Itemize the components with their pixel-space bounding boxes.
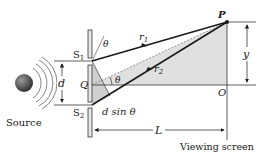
wavefront-icon (33, 68, 41, 98)
d-label: d (58, 77, 65, 90)
viewing-screen-label: Viewing screen (179, 141, 254, 152)
p-label: P (217, 9, 226, 20)
source-icon (15, 74, 33, 92)
q-label: Q (80, 79, 88, 90)
o-label: O (218, 87, 226, 98)
double-slit-diagram: Source d S1 S2 Q r1 r2 θ θ d sin θ P O y (0, 0, 273, 163)
wavefront-icon (36, 64, 47, 102)
r1-label: r1 (139, 31, 148, 44)
s2-label: S2 (73, 107, 84, 120)
l-label: L (154, 124, 162, 137)
source-label: Source (6, 117, 42, 128)
s1-label: S1 (73, 49, 84, 62)
slit-barrier (88, 30, 92, 137)
theta-top-label: θ (103, 39, 109, 49)
theta-mid-label: θ (115, 75, 121, 85)
path-difference-label: d sin θ (102, 106, 136, 117)
source (15, 57, 57, 109)
y-label: y (242, 48, 250, 61)
wavefront-icon (42, 57, 57, 109)
